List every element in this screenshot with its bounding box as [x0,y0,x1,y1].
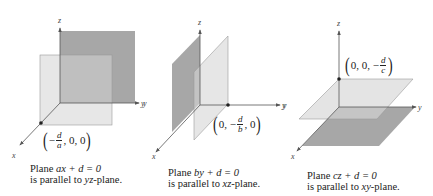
intercept-point [39,121,43,125]
caption-text: -plane. [93,174,122,185]
close-paren: ) [256,114,261,134]
plane-name: xy [362,181,371,192]
intercept-point [337,77,341,81]
close-paren: ) [388,55,393,75]
caption-ax: Plane ax + d = 0 is parallel to yz-plane… [30,163,122,185]
z-axis-label: z [197,18,202,27]
fraction: d b [237,115,244,134]
minus-sign: − [49,134,55,146]
coords-pre: 0, 0, − [351,59,379,71]
caption-line-2: is parallel to yz-plane. [30,174,122,185]
caption-by: Plane by + d = 0 is parallel to xz-plane… [168,167,260,189]
y-axis-label: y [417,103,422,112]
coords-pre: 0, − [219,118,236,130]
equation-rest: + d = 0 [204,167,239,178]
z-axis-label: z [57,16,62,25]
point-label-ax: ( − d a , 0, 0 ) [42,130,92,150]
equation-var: ax [56,163,66,174]
open-paren: ( [213,114,218,134]
caption-cz: Plane cz + d = 0 is parallel to xy-plane… [307,170,400,192]
caption-text: is parallel to [30,174,85,185]
open-paren: ( [345,55,350,75]
caption-text: -plane. [371,181,400,192]
denominator: b [238,125,243,134]
caption-line-1: Plane ax + d = 0 [30,163,122,174]
plane-name: yz [85,174,94,185]
caption-line-1: Plane by + d = 0 [168,167,260,178]
plane-name: xz [223,178,232,189]
caption-text: Plane [30,163,56,174]
caption-text: is parallel to [307,181,362,192]
x-axis-label: x [290,152,295,161]
figure-by-plane: z y y x [142,18,286,161]
denominator: c [381,66,385,75]
close-paren: ) [86,130,91,150]
numerator: d [380,56,387,66]
x-axis-label: x [11,151,16,160]
caption-text: Plane [307,170,333,181]
coords-rest: , 0 [244,118,255,130]
equation-var: by [194,167,204,178]
y-axis-left-label: y [282,101,287,110]
equation-rest: + d = 0 [342,170,377,181]
denominator: a [57,141,62,150]
caption-line-2: is parallel to xz-plane. [168,178,260,189]
numerator: d [237,115,244,125]
caption-text: -plane. [231,178,260,189]
equation-rest: + d = 0 [66,163,101,174]
point-label-by: ( 0, − d b , 0 ) [212,114,262,134]
y-axis-left-label: y [142,99,147,108]
point-label-cz: ( 0, 0, − d c ) [344,55,394,75]
caption-text: Plane [168,167,194,178]
fraction: d a [56,131,63,150]
caption-text: is parallel to [168,178,223,189]
figure-cz-plane: z y y x [282,19,422,161]
plane-ax-d [40,55,112,125]
caption-line-2: is parallel to xy-plane. [307,181,400,192]
fraction: d c [380,56,387,75]
numerator: d [56,131,63,141]
equation-var: cz [333,170,342,181]
caption-line-1: Plane cz + d = 0 [307,170,400,181]
z-axis-label: z [336,19,341,28]
open-paren: ( [43,130,48,150]
intercept-point [226,103,230,107]
x-axis-label: x [151,152,156,161]
coords-rest: , 0, 0 [63,134,85,146]
